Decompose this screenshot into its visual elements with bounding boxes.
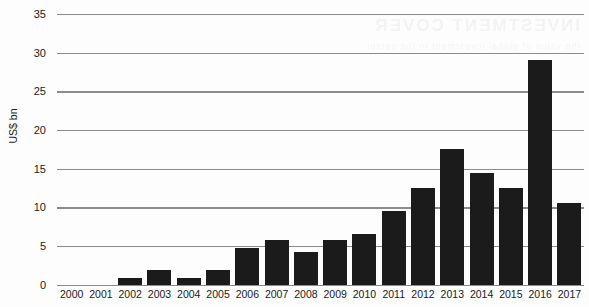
bar-slot bbox=[116, 12, 145, 285]
x-axis-label: 2009 bbox=[321, 288, 350, 300]
x-axis-label: 2013 bbox=[438, 288, 467, 300]
bar-slot bbox=[86, 12, 115, 285]
bar-slot bbox=[145, 12, 174, 285]
y-tick-label-0: 0 bbox=[16, 280, 46, 291]
bar-chart: INVESTMENT COVER the value of global inv… bbox=[0, 0, 589, 307]
bar bbox=[147, 270, 171, 285]
x-axis-label: 2007 bbox=[262, 288, 291, 300]
y-tick-label-10: 10 bbox=[16, 202, 46, 213]
bar-slot bbox=[291, 12, 320, 285]
x-axis-label: 2005 bbox=[203, 288, 232, 300]
bar-slot bbox=[379, 12, 408, 285]
bar-slot bbox=[555, 12, 584, 285]
bar bbox=[323, 240, 347, 285]
x-axis-label: 2012 bbox=[408, 288, 437, 300]
bar bbox=[352, 234, 376, 285]
bar bbox=[382, 211, 406, 285]
bar bbox=[265, 240, 289, 285]
x-axis-label: 2015 bbox=[496, 288, 525, 300]
x-axis-label: 2016 bbox=[526, 288, 555, 300]
bar bbox=[294, 252, 318, 286]
x-axis-label: 2014 bbox=[467, 288, 496, 300]
bar-slot bbox=[321, 12, 350, 285]
x-axis-label: 2010 bbox=[350, 288, 379, 300]
x-axis-label: 2004 bbox=[174, 288, 203, 300]
bar-series bbox=[57, 12, 584, 285]
bar bbox=[499, 188, 523, 285]
bar-slot bbox=[233, 12, 262, 285]
x-axis-label: 2000 bbox=[57, 288, 86, 300]
x-axis-tick-labels: 2000200120022003200420052006200720082009… bbox=[57, 288, 584, 300]
x-axis-label: 2008 bbox=[291, 288, 320, 300]
bar bbox=[235, 248, 259, 285]
bar-slot bbox=[467, 12, 496, 285]
x-axis-label: 2003 bbox=[145, 288, 174, 300]
bar bbox=[206, 270, 230, 285]
y-tick-label-30: 30 bbox=[16, 48, 46, 59]
x-axis-label: 2006 bbox=[233, 288, 262, 300]
bar-slot bbox=[408, 12, 437, 285]
bar-slot bbox=[438, 12, 467, 285]
y-tick-label-20: 20 bbox=[16, 125, 46, 136]
bar-slot bbox=[203, 12, 232, 285]
bar-slot bbox=[57, 12, 86, 285]
bar bbox=[411, 188, 435, 285]
bar-slot bbox=[174, 12, 203, 285]
bar bbox=[118, 278, 142, 285]
bar-slot bbox=[496, 12, 525, 285]
bar bbox=[528, 60, 552, 285]
x-axis-label: 2017 bbox=[555, 288, 584, 300]
x-axis-label: 2002 bbox=[116, 288, 145, 300]
y-tick-label-25: 25 bbox=[16, 86, 46, 97]
y-tick-label-15: 15 bbox=[16, 164, 46, 175]
bar-slot bbox=[526, 12, 555, 285]
bar bbox=[440, 149, 464, 285]
plot-area bbox=[57, 12, 584, 285]
y-tick-label-5: 5 bbox=[16, 241, 46, 252]
bar bbox=[470, 173, 494, 285]
bar-slot bbox=[262, 12, 291, 285]
x-axis-label: 2001 bbox=[86, 288, 115, 300]
y-tick-label-35: 35 bbox=[16, 9, 46, 20]
x-axis-label: 2011 bbox=[379, 288, 408, 300]
bar bbox=[177, 278, 201, 285]
bar-slot bbox=[350, 12, 379, 285]
bar bbox=[557, 203, 581, 285]
